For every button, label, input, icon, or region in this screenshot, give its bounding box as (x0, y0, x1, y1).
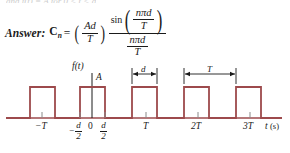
time-axis-symbol: t (265, 121, 268, 131)
xtick-minus-sign-d-over-2: − (69, 125, 74, 135)
coefficient-letter: C (49, 25, 57, 37)
function-label: f(t) (72, 61, 84, 71)
T-arrow-left-icon (185, 72, 190, 76)
time-axis-label: t (s) (265, 121, 279, 131)
prefactor-denominator: T (85, 34, 96, 45)
d-arrow-left-icon (133, 72, 138, 76)
sin-argument-numerator: nπd (133, 8, 154, 19)
figure-page: and f(t) = A for 0 < t < d Answer: Cn = … (0, 0, 290, 153)
d-arrow-right-icon (151, 72, 156, 76)
time-axis-unit: (s) (270, 121, 279, 131)
prefactor-group: ( Ad T ) (73, 21, 106, 44)
xtick-label-minus-d-over-2: d 2 (75, 121, 82, 141)
prefactor-numerator: Ad (82, 21, 99, 32)
sinc-fraction: sin ( nπd T ) nπd T (109, 8, 166, 58)
sin-argument-denominator: T (138, 21, 149, 32)
answer-formula: Answer: Cn = ( Ad T ) sin ( nπd (5, 13, 166, 53)
prefactor-fraction: Ad T (82, 21, 99, 44)
xtick-minus-d-numerator: d (75, 121, 82, 130)
coefficient-subscript: n (58, 32, 62, 41)
xtick-label-zero: 0 (88, 121, 93, 131)
xtick-minus-d-denominator: 2 (75, 132, 82, 141)
xtick-label-minus-T: −T (35, 121, 47, 131)
sinc-denominator-numerator: nπd (127, 35, 148, 46)
pulse-train-path (6, 87, 282, 118)
xtick-d-denominator: 2 (100, 132, 107, 141)
period-label: T (207, 64, 212, 74)
xtick-d-numerator: d (100, 121, 107, 130)
answer-label: Answer: (5, 27, 45, 39)
amplitude-label: A (96, 72, 102, 82)
xtick-label-2T: 2T (191, 121, 201, 131)
xtick-label-T: T (143, 121, 148, 131)
T-arrow-right-icon (230, 72, 235, 76)
sin-argument-fraction: nπd T (133, 8, 154, 31)
xtick-label-d-over-2: d 2 (100, 121, 107, 141)
sin-argument-group: ( nπd T ) (123, 8, 164, 31)
coefficient-symbol: Cn (49, 25, 61, 40)
pulse-width-label: d (141, 64, 146, 74)
sinc-numerator: sin ( nπd T ) (109, 8, 166, 31)
equals-sign: = (64, 27, 71, 39)
sin-function-name: sin (111, 15, 123, 25)
cutoff-text-fragment: and f(t) = A for 0 < t < d (6, 0, 96, 3)
waveform-figure: f(t) A d T −T − d 2 0 d 2 T 2T 3T t (s) (0, 55, 290, 153)
xtick-label-3T: 3T (243, 121, 253, 131)
